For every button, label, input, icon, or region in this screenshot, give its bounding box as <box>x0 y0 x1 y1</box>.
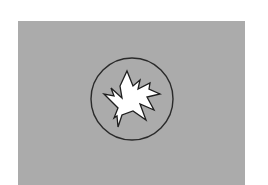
figure-graphic <box>0 0 268 185</box>
fracture-starburst-icon <box>104 71 160 127</box>
